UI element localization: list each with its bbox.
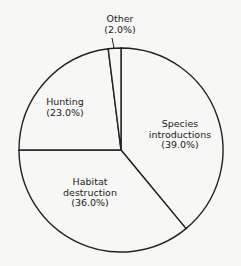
pie-slices [19,48,223,252]
slice-label-hunting: Hunting(23.0%) [46,96,84,118]
pie-chart: Speciesintroductions(39.0%)Habitatdestru… [0,0,241,266]
other-leader-line [112,38,114,48]
slice-label-other: Other(2.0%) [104,13,136,35]
